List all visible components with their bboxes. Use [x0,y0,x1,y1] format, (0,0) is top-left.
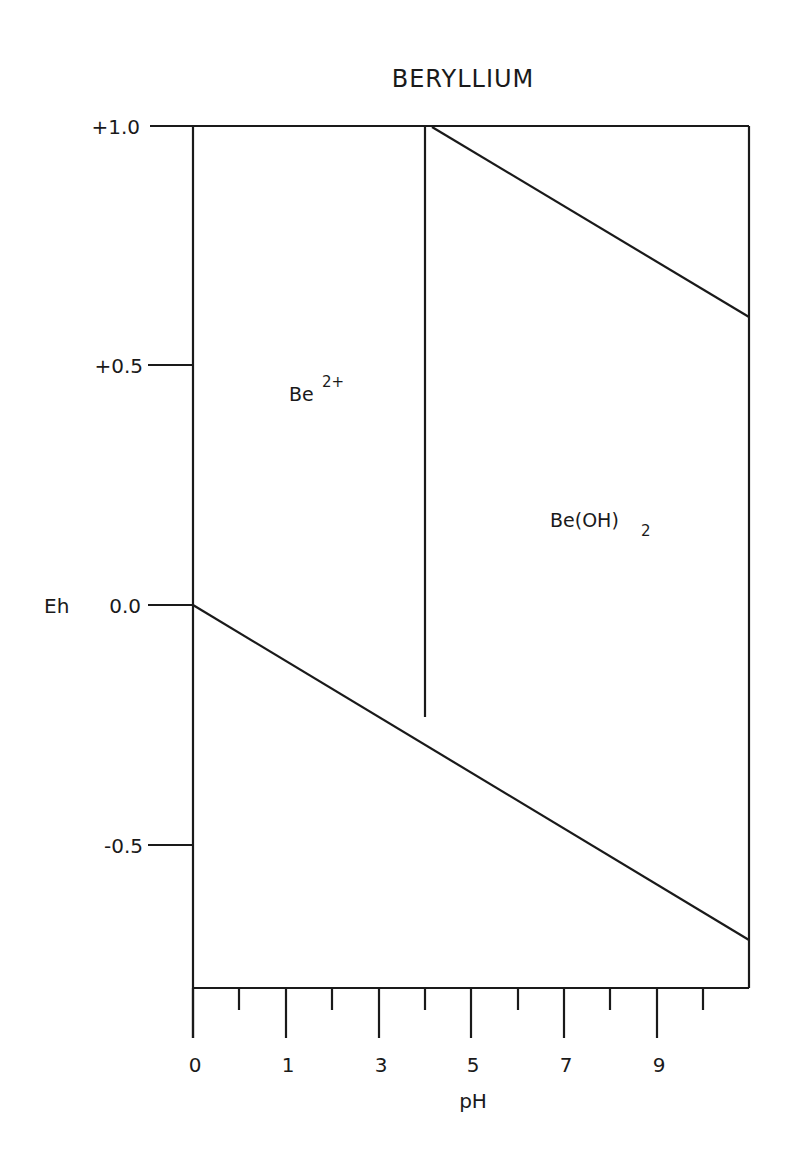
y-axis-tick-labels: +1.0 +0.5 0.0 -0.5 [91,115,143,858]
x-axis-label: pH [459,1089,487,1113]
region-label-beoh2: Be(OH) 2 [550,509,651,540]
x-tick-label: 7 [560,1053,573,1077]
y-axis-ticks [148,365,193,845]
y-axis-label: Eh [44,594,69,618]
chart-title: BERYLLIUM [392,65,535,93]
be2plus-base: Be [289,383,314,405]
x-tick-label: 1 [282,1053,295,1077]
x-tick-label: 0 [189,1053,202,1077]
y-tick-label: -0.5 [104,834,143,858]
x-tick-label: 3 [375,1053,388,1077]
beoh2-subscript: 2 [641,522,651,540]
y-tick-label: 0.0 [109,594,141,618]
x-axis-ticks [193,988,703,1038]
region-label-be2plus: Be 2+ [289,373,344,405]
x-tick-label: 5 [467,1053,480,1077]
be2plus-superscript: 2+ [322,373,344,391]
beoh2-base: Be(OH) [550,509,619,531]
x-axis-tick-labels: 0 1 3 5 7 9 [189,1053,666,1077]
phase-boundaries [193,126,749,940]
lower-water-stability-line [193,605,749,940]
y-tick-label: +0.5 [94,354,143,378]
x-tick-label: 9 [653,1053,666,1077]
upper-water-stability-line [432,127,749,317]
y-tick-label: +1.0 [91,115,140,139]
pourbaix-diagram: BERYLLIUM +1.0 +0.5 0.0 -0.5 Eh [0,0,788,1176]
